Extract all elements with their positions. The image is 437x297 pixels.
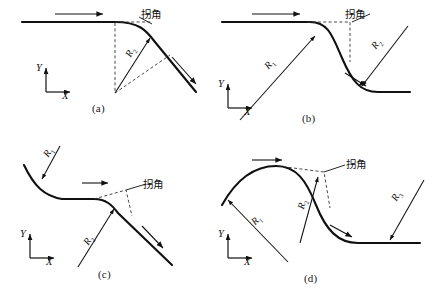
panel-a-axis-x-label: X: [62, 90, 68, 101]
panel-a-arrow-out: [172, 57, 196, 84]
panel-d-radius2-arrow: [300, 177, 318, 243]
panel-d-corner-leader: [324, 165, 345, 172]
panel-d-radius3-arrow: [390, 180, 424, 240]
panel-a-toolpath: [22, 22, 196, 92]
panel-b-caption: (b): [302, 112, 315, 124]
panel-a-radius-arrow: [115, 38, 150, 93]
panel-b-corner-dash: [307, 22, 350, 62]
panel-a-caption: (a): [92, 102, 105, 114]
panel-c-graphics: [24, 146, 172, 267]
panel-c-corner-label: 拐角: [143, 176, 163, 191]
panel-d-toolpath: [222, 166, 420, 243]
panel-b-axis-x-label: X: [244, 106, 250, 117]
panel-b-axis-y-label: Y: [218, 78, 224, 89]
panel-a-graphics: [22, 14, 196, 93]
figure-container: 拐角 R2 Y X (a) 拐角 R1 R2 Y X (b) 拐角 R1 R2 …: [0, 0, 437, 297]
panel-d-corner-label: 拐角: [346, 156, 366, 171]
panel-c-arrow-out: [142, 226, 163, 248]
panel-d-graphics: [222, 160, 424, 262]
panel-c-caption: (c): [98, 268, 111, 280]
panel-a-corner-label: 拐角: [141, 6, 161, 21]
panel-b-corner-label: 拐角: [345, 6, 365, 21]
panel-d-axis-x-label: X: [244, 256, 250, 267]
panel-b-toolpath: [222, 22, 410, 92]
panel-d-arrow-out: [330, 225, 352, 237]
panel-b-radius2-arrow: [362, 26, 408, 86]
panel-a-axis-y-label: Y: [36, 62, 42, 73]
panel-c-axis-y-label: Y: [20, 228, 26, 239]
panel-a-radius-dash: [115, 55, 170, 93]
panel-d-axis-y-label: Y: [218, 228, 224, 239]
panel-c-corner-dash: [94, 190, 132, 216]
panel-d-caption: (d): [304, 272, 317, 284]
panel-d-radius1-arrow: [228, 200, 288, 262]
panel-b-graphics: [222, 14, 410, 120]
panel-c-axis-x-label: X: [46, 256, 52, 267]
